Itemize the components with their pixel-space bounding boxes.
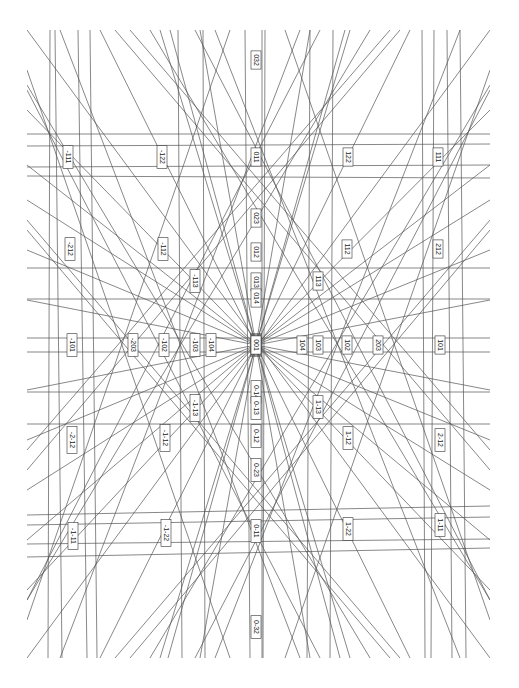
label-text: 0-23 [253, 463, 260, 477]
kikuchi-line [27, 230, 390, 658]
label-text: -2-12 [69, 432, 76, 448]
kikuchi-line [150, 85, 490, 658]
kikuchi-line [27, 250, 256, 345]
label-text: 111 [435, 152, 442, 163]
zone-axis-label: 013 [251, 273, 261, 291]
label-text: 1-11 [437, 518, 444, 532]
label-text: 101 [437, 339, 444, 351]
zone-axis-label: 203 [373, 336, 383, 354]
label-text: 012 [253, 246, 260, 258]
zone-axis-label: 1-12 [343, 427, 353, 450]
zone-axis-label: -212 [65, 238, 75, 261]
kikuchi-line [27, 30, 230, 620]
label-text: -1-11 [70, 528, 77, 544]
zone-axis-label: -1-13 [190, 395, 200, 422]
label-text: -113 [192, 274, 199, 288]
kikuchi-line [256, 165, 490, 345]
zone-axis-label: -2-12 [67, 427, 77, 454]
zone-axis-label: -112 [158, 238, 168, 261]
label-text: -111 [65, 151, 72, 164]
label-text: -1-13 [192, 400, 199, 416]
label-text: 0-13 [253, 401, 260, 415]
zone-axis-label: -203 [128, 334, 138, 357]
zone-axis-label: 112 [342, 240, 352, 258]
kikuchi-line [195, 30, 490, 600]
label-text: -103 [192, 338, 199, 352]
kikuchi-line [256, 345, 490, 590]
label-text: -101 [69, 338, 76, 352]
zone-axis-label: -122 [157, 146, 167, 169]
zone-axis-label: 0-11 [251, 520, 261, 543]
zone-axis-label: 0-32 [251, 616, 261, 639]
zone-axis-label: 012 [251, 243, 261, 261]
kikuchi-line [330, 30, 333, 658]
zone-axis-label: -1-11 [68, 523, 78, 550]
zone-axis-label: 032 [251, 51, 261, 69]
zone-axis-label: 001 [251, 336, 261, 354]
kikuchi-line [431, 30, 434, 658]
label-text: 0-11 [253, 524, 260, 538]
kikuchi-line [27, 70, 230, 658]
kikuchi-line [203, 30, 205, 658]
zone-axis-label: 1-11 [435, 514, 445, 537]
kikuchi-line [256, 345, 490, 490]
kikuchi-line [256, 345, 490, 440]
label-text: -1-22 [163, 525, 170, 541]
label-text: 1-12 [345, 431, 352, 445]
kikuchi-line [27, 90, 320, 658]
kikuchi-map-canvas: 032-111-122011122111023-212-112012112212… [0, 0, 519, 688]
label-text: -112 [160, 242, 167, 256]
label-text: 013 [253, 276, 260, 288]
label-text: 0-12 [253, 429, 260, 443]
label-text: -104 [208, 338, 215, 352]
zone-axis-label: -103 [190, 334, 200, 357]
label-text: 203 [375, 339, 382, 351]
label-text: 011 [253, 151, 260, 162]
kikuchi-line [27, 345, 256, 440]
kikuchi-line [27, 176, 490, 178]
label-text: 113 [315, 275, 322, 286]
zone-axis-label: -1-22 [161, 520, 171, 547]
label-text: 001 [253, 339, 260, 351]
kikuchi-line [170, 30, 256, 345]
label-text: -102 [161, 338, 168, 352]
zone-axis-label: -1-12 [160, 425, 170, 452]
label-text: 032 [253, 54, 260, 66]
kikuchi-line [27, 506, 490, 515]
label-text: 122 [345, 151, 352, 163]
label-text: 1-13 [315, 400, 322, 414]
label-text: 014 [253, 292, 260, 304]
zone-axis-label: 2-12 [435, 429, 445, 452]
kikuchi-line [285, 70, 490, 658]
zone-axis-label: -102 [159, 334, 169, 357]
zone-axis-label: 0-23 [251, 459, 261, 482]
kikuchi-line [256, 30, 310, 345]
kikuchi-line [160, 30, 256, 345]
zone-axis-label: 103 [313, 336, 323, 354]
zone-axis-label: 0-13 [251, 397, 261, 420]
zone-axis-label: -111 [63, 146, 73, 169]
label-text: -122 [159, 150, 166, 164]
zone-axis-label: 104 [297, 336, 307, 354]
label-text: 112 [344, 243, 351, 254]
zone-axis-label: 011 [251, 148, 261, 166]
zone-axis-label: 014 [251, 289, 261, 307]
label-text: 1-22 [345, 522, 352, 536]
kikuchi-line [55, 30, 62, 658]
kikuchi-line [27, 85, 370, 658]
label-text: 212 [435, 243, 442, 255]
zone-axis-label: -104 [206, 334, 216, 357]
zone-axis-label: 122 [343, 148, 353, 166]
kikuchi-line [285, 30, 490, 620]
zone-axis-label: 212 [433, 240, 443, 258]
label-text: 102 [344, 339, 351, 351]
kikuchi-line [78, 30, 87, 658]
kikuchi-line-diagram: 032-111-122011122111023-212-112012112212… [0, 0, 519, 688]
label-text: 0-32 [253, 620, 260, 634]
zone-axis-label: 113 [313, 272, 323, 290]
label-text: 2-12 [437, 433, 444, 447]
label-text: -1-12 [162, 430, 169, 446]
zone-axis-label: -113 [190, 270, 200, 293]
kikuchi-line [256, 250, 490, 345]
label-text: 104 [299, 339, 306, 351]
